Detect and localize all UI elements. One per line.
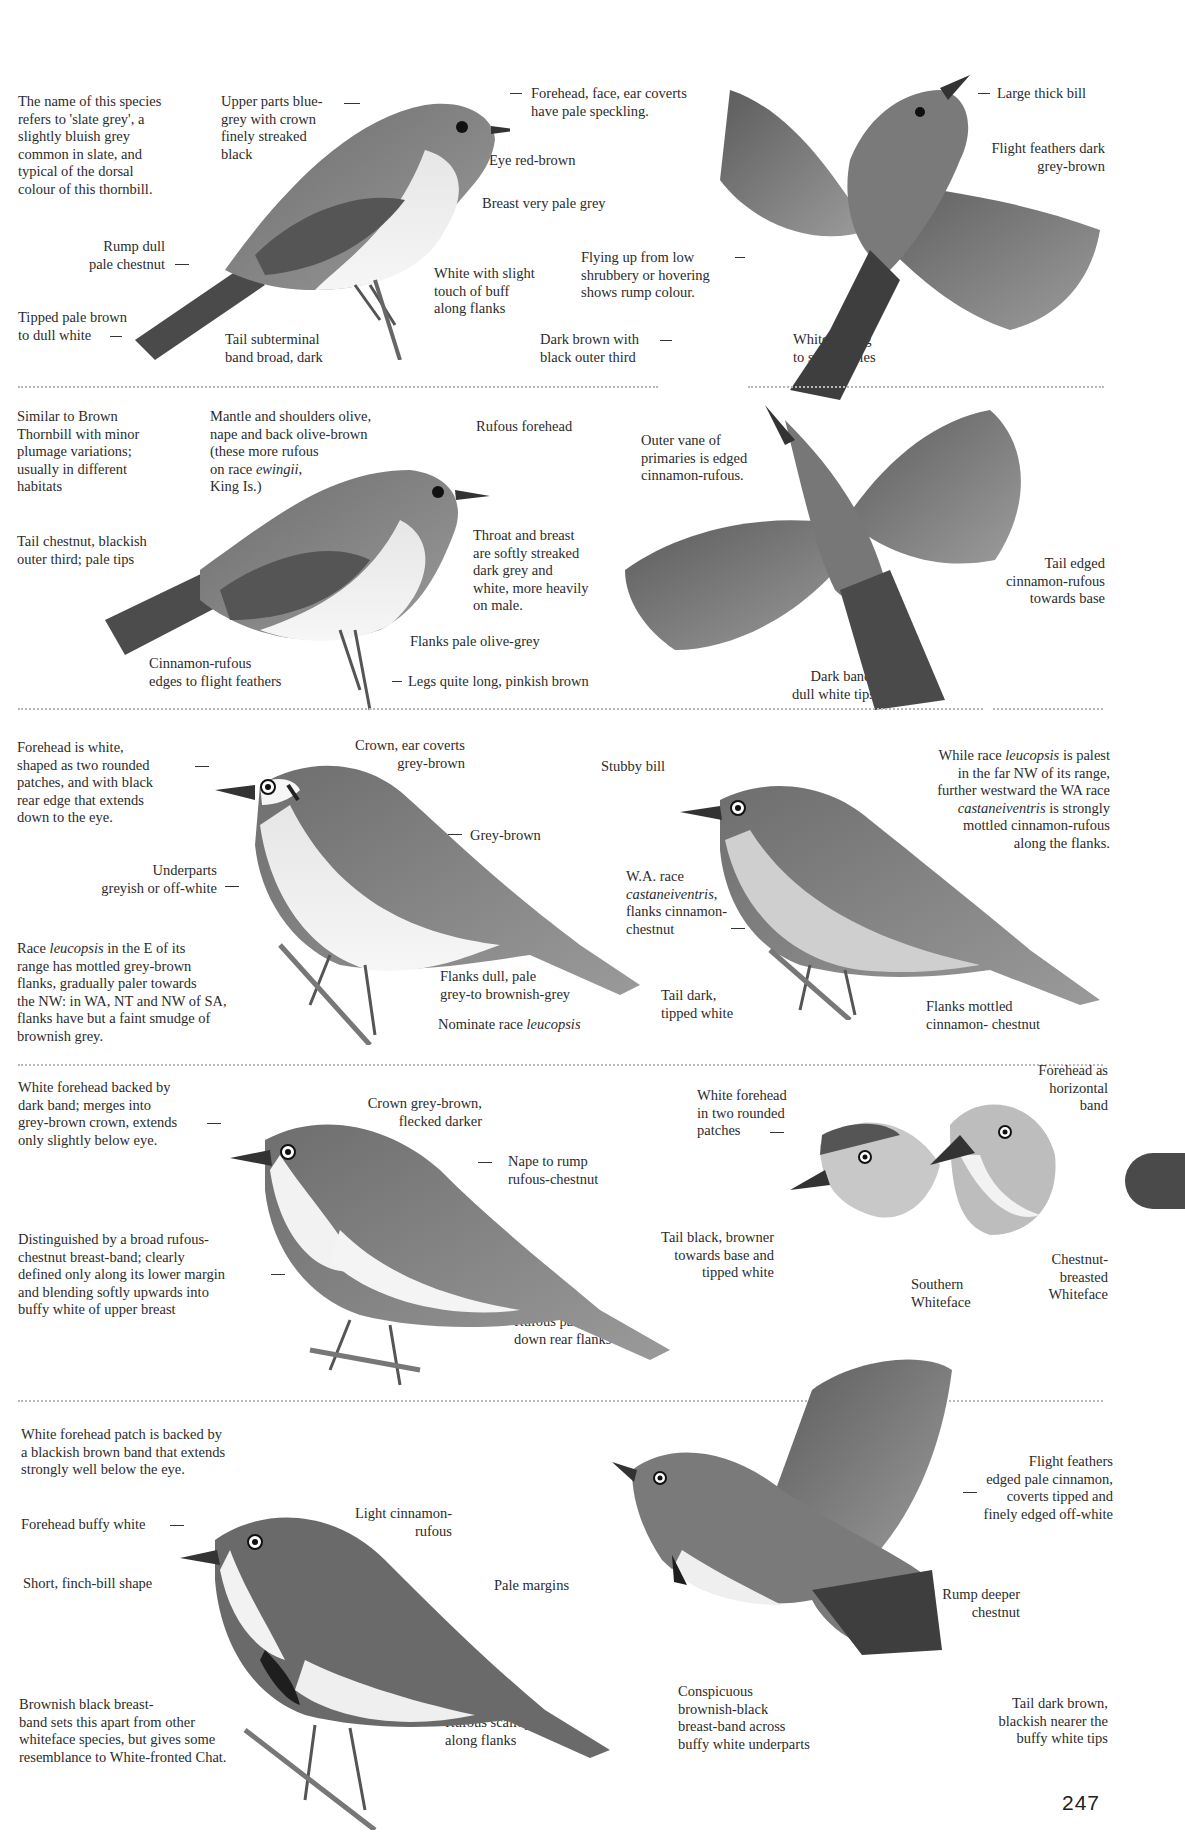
section-divider	[993, 708, 1103, 710]
label-finch-bill: Short, finch-bill shape	[23, 1575, 152, 1593]
label-tail-dark-brown: Tail dark brown, blackish nearer the buf…	[940, 1695, 1108, 1748]
label-forehead: Forehead is white, shaped as two rounded…	[17, 739, 153, 827]
leader-line	[207, 1123, 221, 1124]
section-divider	[18, 386, 658, 388]
label-southern-whiteface: Southern Whiteface	[911, 1276, 971, 1311]
southern-whiteface-illustration	[200, 745, 640, 1045]
slaty-thornbill-flying-illustration	[670, 70, 1110, 410]
label-forehead-buffy: Forehead buffy white	[21, 1516, 146, 1534]
label-race-note: Race leucopsis in the E of its range has…	[17, 940, 227, 1045]
label-rufous-forehead: Rufous forehead	[476, 418, 572, 436]
tasmanian-thornbill-flying-illustration	[615, 400, 1035, 720]
label-white-forehead: White forehead backed by dark band; merg…	[18, 1079, 177, 1149]
label-white-patch: White forehead patch is backed by a blac…	[21, 1426, 225, 1479]
section-divider	[18, 708, 983, 710]
slaty-thornbill-perched-illustration	[125, 80, 510, 360]
label-tail-tip: Tipped pale brown to dull white	[18, 309, 127, 344]
leader-line	[110, 336, 122, 337]
section-divider	[18, 1064, 1103, 1066]
thumb-index-tab	[1125, 1153, 1185, 1209]
label-chestnut-whiteface: Chestnut- breasted Whiteface	[1030, 1251, 1108, 1304]
leader-line	[510, 93, 522, 94]
label-conspicuous: Conspicuous brownish-black breast-band a…	[678, 1683, 810, 1753]
chestnut-breasted-whiteface-illustration	[220, 1110, 680, 1390]
banded-whiteface-perched-illustration	[175, 1500, 615, 1830]
label-underparts: Underparts greyish or off-white	[60, 862, 217, 897]
whiteface-heads-comparison-illustration	[780, 1095, 1100, 1255]
label-distinguished: Distinguished by a broad rufous- chestnu…	[18, 1231, 225, 1319]
section-divider	[748, 386, 1104, 388]
label-dark-brown: Dark brown with black outer third	[540, 331, 639, 366]
banded-whiteface-flying-illustration	[612, 1350, 982, 1660]
southern-whiteface-wa-race-illustration	[670, 770, 1110, 1020]
label-forehead: Forehead, face, ear coverts have pale sp…	[531, 85, 687, 120]
tasmanian-thornbill-perched-illustration	[100, 460, 520, 720]
page-number: 247	[1062, 1791, 1100, 1815]
